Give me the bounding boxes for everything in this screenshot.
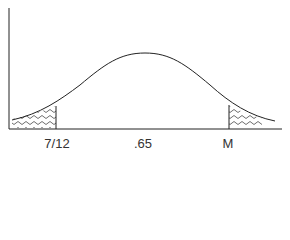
left-tail-shading — [12, 106, 56, 128]
label-mean: .65 — [134, 136, 152, 151]
label-left-bound: 7/12 — [44, 136, 69, 151]
label-right-bound: M — [223, 136, 234, 151]
